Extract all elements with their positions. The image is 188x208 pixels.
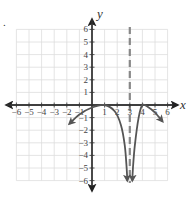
svg-text:−2: −2	[78, 125, 88, 135]
x-axis-label: x	[179, 97, 186, 112]
svg-text:4: 4	[84, 50, 89, 60]
svg-text:−5: −5	[78, 163, 88, 173]
svg-text:3: 3	[84, 62, 89, 72]
function-graph: −6−5−4−3−2−1123456654321−1−2−3−4−5−6 . y…	[0, 0, 188, 208]
svg-text:5: 5	[84, 37, 89, 47]
svg-text:3: 3	[128, 107, 133, 117]
svg-text:−2: −2	[62, 107, 72, 117]
svg-text:2: 2	[84, 75, 89, 85]
svg-text:−3: −3	[78, 138, 88, 148]
svg-text:−6: −6	[78, 176, 88, 186]
svg-text:1: 1	[102, 107, 107, 117]
corner-marker: .	[3, 16, 6, 28]
svg-text:−4: −4	[78, 150, 88, 160]
y-axis-label: y	[95, 6, 103, 21]
svg-text:−4: −4	[37, 107, 47, 117]
svg-text:6: 6	[84, 24, 89, 34]
svg-text:−5: −5	[24, 107, 34, 117]
axes	[6, 19, 177, 190]
svg-text:1: 1	[84, 87, 89, 97]
svg-text:−6: −6	[12, 107, 22, 117]
svg-text:6: 6	[165, 107, 170, 117]
svg-text:−3: −3	[49, 107, 59, 117]
